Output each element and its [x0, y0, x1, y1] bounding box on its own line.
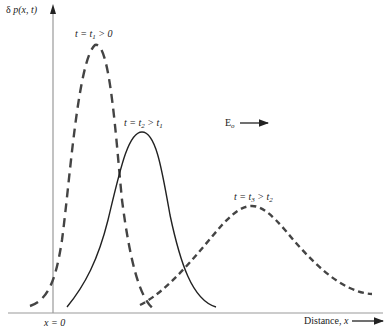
- origin-label: x = 0: [43, 317, 65, 328]
- y-axis-arrow-icon: [50, 4, 56, 14]
- x-axis-label: Distance, x: [304, 315, 349, 326]
- curve-t1-label: t = t1 > 0: [75, 28, 113, 41]
- curve-t1: [30, 45, 155, 310]
- curve-t3: [140, 206, 372, 305]
- diffusion-diagram: δ p(x, t) t = t1 > 0 t = t2 > t1 t = t3 …: [0, 0, 391, 331]
- field-label: Eo: [225, 117, 235, 130]
- curve-t2-label: t = t2 > t1: [124, 117, 163, 130]
- curve-t2: [67, 132, 216, 307]
- y-axis-label: δ p(x, t): [6, 4, 38, 16]
- curve-t3-label: t = t3 > t2: [234, 191, 273, 204]
